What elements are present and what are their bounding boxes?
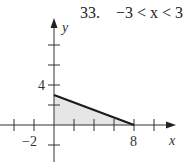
tick-label-8: 8 <box>130 134 137 149</box>
x-axis-label: x <box>168 133 176 148</box>
y-axis-label: y <box>60 20 69 35</box>
tick-label-neg2: −2 <box>22 134 37 149</box>
x-axis-arrow-icon <box>166 122 176 129</box>
y-axis-arrow-icon <box>51 18 58 28</box>
tick-label-4: 4 <box>38 78 45 93</box>
coordinate-plane: y x 4 −2 8 <box>0 0 183 164</box>
